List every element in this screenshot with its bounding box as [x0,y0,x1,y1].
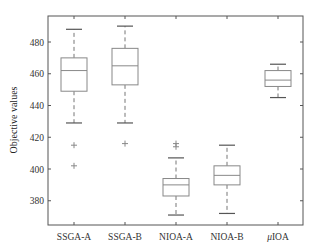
x-category-label: SSGA-A [57,232,91,242]
y-tick-label: 400 [30,165,45,175]
x-category-label: NIOA-A [159,232,193,242]
y-tick-label: 420 [30,133,45,143]
y-tick-label: 480 [30,38,45,48]
box-ssga-a [61,29,87,169]
x-category-label: NIOA-B [210,232,243,242]
x-axis-ticks: SSGA-ASSGA-BNIOA-ANIOA-BμIOA [57,16,289,242]
y-tick-label: 380 [30,196,45,206]
box-ssga-b [112,26,138,146]
box-muioa [265,64,291,97]
x-category-label: μIOA [266,232,289,242]
y-axis-title: Objective values [8,86,19,153]
y-tick-label: 440 [30,101,45,111]
box-series [61,26,291,215]
x-category-label: SSGA-B [108,232,142,242]
boxplot-chart: 380400420440460480 SSGA-ASSGA-BNIOA-ANIO… [0,0,320,251]
y-tick-label: 460 [30,69,45,79]
box-nioa-a [163,141,189,215]
box-nioa-b [214,145,240,213]
